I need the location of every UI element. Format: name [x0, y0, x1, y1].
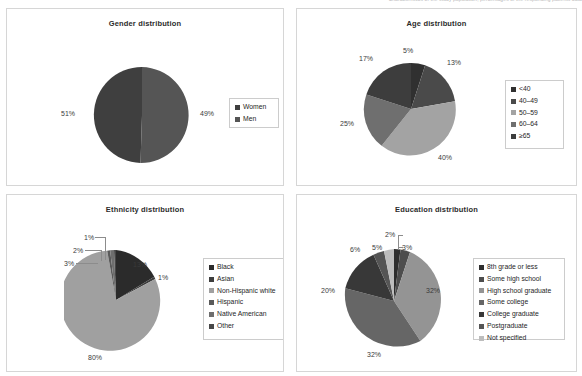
legend-item-65-plus[interactable]: ≥65 [511, 133, 558, 140]
panel-gender-distribution: Gender distribution 51% 49% Women [6, 8, 284, 186]
pie-label-high-school-graduate-pct: 32% [426, 287, 440, 294]
legend-item-under40[interactable]: <40 [511, 86, 558, 93]
clipped-caption: Characteristics of the study population,… [300, 0, 582, 3]
legend-label-some-high-school: Some high school [487, 276, 541, 283]
pie-label-college-graduate-pct: 20% [321, 287, 335, 294]
legend-swatch-icon-women [235, 105, 240, 110]
pie-label-some-college-pct: 32% [367, 351, 381, 358]
legend-swatch-icon-8th-grade-or-less [479, 265, 484, 270]
legend-label-some-college: Some college [487, 299, 528, 306]
pie-label-some-high-school-pct: 3% [402, 244, 412, 251]
leader-line-native-american [101, 250, 102, 261]
chart-title-age: Age distribution [297, 19, 576, 28]
legend-item-some-college[interactable]: Some college [479, 299, 559, 306]
pie-label-hispanic-pct: 3% [64, 260, 74, 267]
legend-item-high-school-graduate[interactable]: High school graduate [479, 288, 559, 295]
legend-gender: Women Men [229, 98, 279, 128]
pie-chart-age [363, 61, 459, 157]
pie-chart-gender [92, 65, 192, 165]
legend-label-under40: <40 [519, 86, 531, 93]
legend-item-non-hispanic-white[interactable]: Non-Hispanic white [209, 288, 279, 295]
legend-item-other[interactable]: Other [209, 323, 279, 330]
legend-item-native-american[interactable]: Native American [209, 311, 279, 318]
pie-label-under40-pct: 5% [403, 47, 413, 54]
legend-label-60-64: 60–64 [519, 121, 538, 128]
legend-label-high-school-graduate: High school graduate [487, 288, 551, 295]
legend-swatch-icon-50-59 [511, 110, 516, 115]
legend-swatch-icon-under40 [511, 87, 516, 92]
pie-label-8th-grade-or-less-pct: 2% [385, 231, 395, 238]
pie-label-other-pct: 1% [84, 234, 94, 241]
pie-label-women-pct: 51% [61, 110, 75, 117]
legend-label-other: Other [217, 323, 234, 330]
pie-svg-education [340, 247, 448, 355]
legend-label-50-59: 50–59 [519, 110, 538, 117]
legend-item-40-49[interactable]: 40–49 [511, 98, 558, 105]
pie-svg-gender [92, 65, 192, 165]
legend-swatch-icon-black [209, 265, 214, 270]
legend-item-some-high-school[interactable]: Some high school [479, 276, 559, 283]
legend-item-8th-grade-or-less[interactable]: 8th grade or less [479, 264, 559, 271]
legend-swatch-icon-65-plus [511, 134, 516, 139]
legend-swatch-icon-60-64 [511, 122, 516, 127]
pie-label-black-pct: 13% [133, 261, 147, 268]
pie-label-not-specified-pct: 5% [372, 244, 382, 251]
legend-swatch-icon-40-49 [511, 99, 516, 104]
legend-swatch-icon-other [209, 324, 214, 329]
pie-label-postgraduate-pct: 6% [350, 246, 360, 253]
legend-item-hispanic[interactable]: Hispanic [209, 299, 279, 306]
leader-line-other-h [95, 237, 106, 238]
legend-item-not-specified[interactable]: Not specified [479, 335, 559, 342]
pie-slice-men [141, 67, 189, 163]
pie-svg-age [363, 61, 459, 157]
legend-item-black[interactable]: Black [209, 264, 279, 271]
legend-label-women: Women [243, 104, 266, 111]
legend-item-postgraduate[interactable]: Postgraduate [479, 323, 559, 330]
legend-age: <40 40–49 50–59 60–64 ≥65 [505, 80, 564, 149]
legend-item-60-64[interactable]: 60–64 [511, 121, 558, 128]
legend-label-40-49: 40–49 [519, 98, 538, 105]
legend-item-women[interactable]: Women [235, 104, 273, 111]
legend-item-50-59[interactable]: 50–59 [511, 110, 558, 117]
legend-label-black: Black [217, 264, 234, 271]
legend-swatch-icon-some-high-school [479, 277, 484, 282]
leader-line-some-high-school-h [398, 247, 403, 248]
legend-swatch-icon-some-college [479, 300, 484, 305]
legend-swatch-icon-not-specified [479, 336, 484, 341]
legend-item-asian[interactable]: Asian [209, 276, 279, 283]
legend-label-college-graduate: College graduate [487, 311, 539, 318]
legend-label-non-hispanic-white: Non-Hispanic white [217, 288, 276, 295]
pie-label-60-64-pct: 25% [340, 120, 354, 127]
legend-swatch-icon-asian [209, 277, 214, 282]
legend-label-postgraduate: Postgraduate [487, 323, 527, 330]
chart-title-gender: Gender distribution [7, 19, 283, 28]
chart-title-ethnicity: Ethnicity distribution [7, 205, 283, 214]
leader-line-native-american-h [85, 250, 102, 251]
legend-label-not-specified: Not specified [487, 335, 526, 342]
legend-label-65-plus: ≥65 [519, 133, 530, 140]
chart-title-education: Education distribution [297, 205, 576, 214]
pie-chart-education [340, 247, 448, 355]
legend-swatch-icon-postgraduate [479, 324, 484, 329]
panel-education-distribution: Education distribution 2% 3% 32% 32% 20%… [296, 194, 577, 372]
legend-label-men: Men [243, 116, 256, 123]
leader-line-8th-grade-h [398, 235, 403, 236]
legend-swatch-icon-non-hispanic-white [209, 288, 214, 293]
pie-slice-women [94, 67, 142, 163]
pie-label-50-59-pct: 40% [438, 154, 452, 161]
legend-item-men[interactable]: Men [235, 116, 273, 123]
legend-swatch-icon-native-american [209, 312, 214, 317]
leader-line-hispanic-h [76, 263, 98, 264]
figure-page: Characteristics of the study population,… [0, 0, 582, 376]
legend-label-asian: Asian [217, 276, 234, 283]
legend-swatch-icon-college-graduate [479, 312, 484, 317]
pie-label-native-american-pct: 2% [73, 247, 83, 254]
chart-grid: Gender distribution 51% 49% Women [0, 4, 582, 376]
panel-ethnicity-distribution: Ethnicity distribution 13% 1% 80% 3% 2% … [6, 194, 284, 372]
pie-label-asian-pct: 1% [158, 274, 168, 281]
leader-line-other [105, 237, 106, 260]
legend-label-8th-grade-or-less: 8th grade or less [487, 264, 538, 271]
pie-label-40-49-pct: 13% [447, 59, 461, 66]
pie-label-men-pct: 49% [200, 110, 214, 117]
legend-item-college-graduate[interactable]: College graduate [479, 311, 559, 318]
